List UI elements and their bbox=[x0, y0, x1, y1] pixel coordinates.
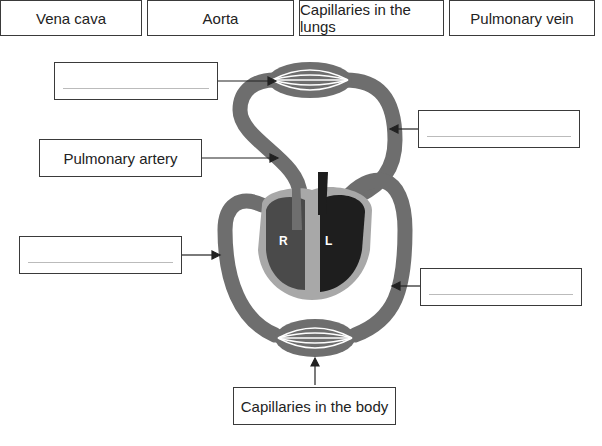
word-bank-aorta[interactable]: Aorta bbox=[147, 0, 294, 36]
answer-line bbox=[28, 262, 173, 263]
word-label: Capillaries in the lungs bbox=[300, 1, 443, 35]
lung-capillaries bbox=[268, 62, 352, 98]
blank-top-left[interactable] bbox=[54, 62, 218, 100]
blank-mid-left[interactable] bbox=[19, 236, 182, 274]
answer-line bbox=[63, 88, 209, 89]
label-pulmonary-artery: Pulmonary artery bbox=[39, 139, 202, 177]
word-label: Pulmonary vein bbox=[470, 10, 573, 27]
blank-top-right[interactable] bbox=[418, 110, 580, 148]
word-bank-vena-cava[interactable]: Vena cava bbox=[0, 0, 142, 36]
heart-label-r: R bbox=[279, 234, 288, 248]
blank-mid-right[interactable] bbox=[420, 268, 582, 306]
word-bank-pulmonary-vein[interactable]: Pulmonary vein bbox=[449, 0, 595, 36]
label-text: Capillaries in the body bbox=[241, 398, 389, 415]
word-bank-capillaries-lungs[interactable]: Capillaries in the lungs bbox=[299, 0, 444, 36]
heart-label-l: L bbox=[325, 234, 332, 248]
label-capillaries-body: Capillaries in the body bbox=[233, 387, 396, 425]
label-text: Pulmonary artery bbox=[63, 150, 177, 167]
answer-line bbox=[429, 294, 573, 295]
answer-line bbox=[427, 136, 571, 137]
body-capillaries bbox=[275, 319, 355, 357]
word-label: Vena cava bbox=[36, 10, 106, 27]
word-label: Aorta bbox=[203, 10, 239, 27]
